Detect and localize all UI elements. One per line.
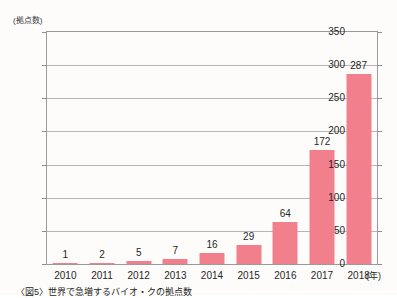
bar-group: 2872018	[340, 32, 377, 264]
y-axis-tick-mark	[42, 98, 46, 99]
bar-value-label: 7	[173, 245, 179, 256]
x-axis-tick-label: 2015	[238, 270, 260, 281]
bar-value-label: 5	[136, 247, 142, 258]
y-axis-tick-label: 300	[305, 59, 345, 70]
bar	[273, 222, 298, 264]
y-axis-tick-mark	[42, 264, 46, 265]
y-axis-tick-label: 350	[305, 26, 345, 37]
y-axis-tick-mark-right	[378, 98, 382, 99]
bar-value-label: 64	[280, 208, 291, 219]
bar-group: 22011	[84, 32, 121, 264]
bar	[346, 74, 371, 264]
x-axis-tick-label: 2011	[91, 270, 113, 281]
y-axis-unit-label: (拠点数)	[13, 14, 42, 25]
x-axis-tick-label: 2017	[311, 270, 333, 281]
bar-value-label: 29	[243, 231, 254, 242]
y-axis-tick-mark-right	[378, 165, 382, 166]
y-axis-tick-mark-right	[378, 32, 382, 33]
y-axis-tick-mark	[42, 32, 46, 33]
y-axis-tick-mark	[42, 231, 46, 232]
y-axis-tick-mark-right	[378, 264, 382, 265]
bar	[126, 261, 151, 264]
bar-value-label: 172	[314, 136, 331, 147]
bar-value-label: 287	[350, 60, 367, 71]
bar	[236, 245, 261, 264]
x-axis-tick-label: 2013	[164, 270, 186, 281]
y-axis-tick-label: 200	[305, 125, 345, 136]
y-axis-tick-mark-right	[378, 65, 382, 66]
bar-group: 72013	[157, 32, 194, 264]
bar	[89, 263, 114, 264]
y-axis-tick-mark	[42, 165, 46, 166]
x-axis-tick-label: 2014	[201, 270, 223, 281]
y-axis-tick-label: 50	[305, 224, 345, 235]
y-axis-tick-label: 100	[305, 191, 345, 202]
x-axis-tick-label: 2016	[274, 270, 296, 281]
y-axis-tick-mark	[42, 131, 46, 132]
y-axis-tick-label: 150	[305, 158, 345, 169]
bar-group: 52012	[120, 32, 157, 264]
bar-group: 12010	[47, 32, 84, 264]
bar-value-label: 1	[63, 249, 69, 260]
bar	[163, 259, 188, 264]
y-axis-tick-label: 250	[305, 92, 345, 103]
x-axis-tick-label: 2012	[128, 270, 150, 281]
bar-group: 642016	[267, 32, 304, 264]
y-axis-tick-mark	[42, 65, 46, 66]
figure-caption: 〈図5〉世界で急増するバイオ・クの拠点数	[16, 285, 192, 298]
bar-group: 162014	[194, 32, 231, 264]
y-axis-tick-label: 0	[305, 258, 345, 269]
y-axis-tick-mark	[42, 198, 46, 199]
bar-value-label: 16	[206, 239, 217, 250]
x-axis-tick-label: 2010	[54, 270, 76, 281]
bar	[199, 253, 224, 264]
x-axis-unit-label: (年)	[366, 269, 381, 282]
bar	[53, 263, 78, 264]
y-axis-tick-mark-right	[378, 131, 382, 132]
bar-value-label: 2	[99, 249, 105, 260]
bar-group: 292015	[230, 32, 267, 264]
y-axis-tick-mark-right	[378, 231, 382, 232]
y-axis-tick-mark-right	[378, 198, 382, 199]
